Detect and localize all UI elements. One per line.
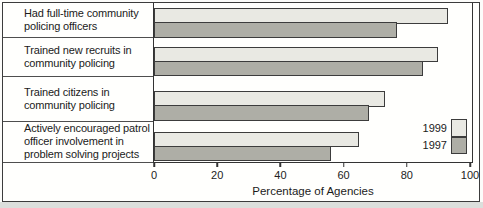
category-label: Trained citizens in community policing (3, 77, 153, 122)
legend-entry-1997: 1997 (423, 137, 467, 155)
x-tick (469, 163, 471, 167)
x-tick (406, 163, 408, 167)
category-labels-column: Had full-time community policing officer… (3, 3, 153, 163)
bar-1997 (154, 105, 369, 121)
legend-swatch-1997 (451, 137, 467, 155)
x-tick (280, 163, 282, 167)
category-label: Trained new recruits in community polici… (3, 38, 153, 77)
category-label: Actively encouraged patrol officer invol… (3, 122, 153, 163)
bar-1997 (154, 61, 423, 77)
x-axis-title: Percentage of Agencies (153, 185, 473, 197)
legend: 1999 1997 (423, 119, 467, 154)
x-tick-label: 20 (211, 169, 223, 181)
legend-label-1997: 1997 (423, 139, 447, 151)
plot-area: 1999 1997 (153, 3, 473, 163)
scan-edge (0, 202, 483, 208)
x-tick-label: 100 (461, 169, 479, 181)
chart-figure: Had full-time community policing officer… (2, 2, 480, 202)
x-tick-label: 40 (274, 169, 286, 181)
x-tick-label: 80 (401, 169, 413, 181)
bar-1997 (154, 146, 331, 162)
bar-1997 (154, 22, 397, 38)
x-tick (153, 163, 155, 167)
legend-swatch-1999 (451, 119, 467, 137)
legend-label-1999: 1999 (423, 122, 447, 134)
x-tick-label: 0 (151, 169, 157, 181)
category-label: Had full-time community policing officer… (3, 3, 153, 38)
x-tick-label: 60 (337, 169, 349, 181)
x-tick (216, 163, 218, 167)
legend-entry-1999: 1999 (423, 119, 467, 137)
x-tick (343, 163, 345, 167)
